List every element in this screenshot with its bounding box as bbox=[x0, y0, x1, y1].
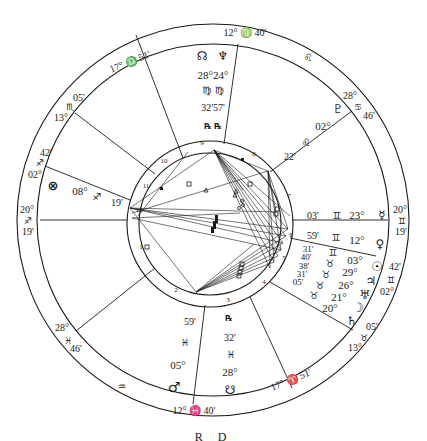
jupiter-degree: 29° bbox=[342, 267, 357, 277]
saturn-sign-icon: ♉ bbox=[310, 291, 319, 301]
cusp-2-sign-icon: ♐ bbox=[36, 158, 44, 168]
house-number-2: 2 bbox=[174, 285, 178, 295]
house-number-4: 4 bbox=[262, 277, 266, 287]
saturn-minute: 05' bbox=[293, 277, 304, 287]
house-number-5: 5 bbox=[282, 253, 286, 263]
cusp-12-degree: 28° bbox=[55, 323, 69, 333]
node-neptune-degrees: 28°24° bbox=[198, 70, 229, 80]
moon-degree: 21° bbox=[331, 292, 346, 302]
north-node-icon: ☊ bbox=[197, 51, 208, 61]
house-number-11: 11 bbox=[143, 181, 150, 191]
cusp-3-degree: 13° bbox=[54, 113, 68, 123]
venus-minute: 59' bbox=[307, 231, 319, 241]
venus-degree: 12° bbox=[349, 235, 364, 245]
asc-minute: 19' bbox=[22, 227, 34, 237]
mercury-minute: 03' bbox=[307, 211, 319, 221]
sun-icon: ☉ bbox=[371, 262, 383, 272]
mercury-degree: 23° bbox=[349, 210, 364, 220]
cusp-2-degree: 02° bbox=[28, 170, 42, 180]
pof-degree: 08° bbox=[72, 186, 87, 196]
cusp-8-degree: 02° bbox=[380, 287, 394, 297]
dsc-sign-icon: ♊ bbox=[398, 216, 406, 226]
cusp-8-minute: 42' bbox=[389, 262, 401, 272]
house-number-9: 9 bbox=[200, 138, 204, 148]
jupiter-sign-icon: ♉ bbox=[326, 259, 335, 269]
cusp-8-sign-icon: ♊ bbox=[387, 275, 395, 285]
venus-icon: ♀ bbox=[376, 239, 385, 249]
mercury-icon: ☿ bbox=[378, 210, 385, 220]
retrograde-icons: ℞ ℞ bbox=[204, 122, 221, 132]
mars-icon: ♂ bbox=[168, 382, 181, 392]
south-node-icon: ☋ bbox=[225, 385, 236, 395]
moon-icon: ☽ bbox=[352, 303, 364, 313]
house-number-6: 6 bbox=[289, 230, 293, 240]
cusp-3-minute: 05' bbox=[73, 93, 85, 103]
cusp-2-minute: 42' bbox=[40, 148, 52, 158]
dsc-degree: 20° bbox=[393, 205, 407, 215]
cusp-9-degree: 13° bbox=[348, 343, 362, 353]
part-of-fortune-icon: ⊗ bbox=[48, 181, 59, 191]
node-neptune-minutes: 32'57' bbox=[201, 103, 225, 113]
neptune-icon: ♆ bbox=[218, 51, 229, 61]
sun-sign-icon: ♊ bbox=[329, 248, 338, 258]
uranus-degree: 26° bbox=[338, 280, 353, 290]
mercury-sign-icon: ♊ bbox=[333, 211, 342, 221]
mars-degree: 05° bbox=[170, 360, 185, 370]
venus-sign-icon: ♊ bbox=[332, 233, 341, 243]
house-number-8: 8 bbox=[252, 149, 256, 159]
cusp-3-sign-icon: ♏ bbox=[66, 102, 74, 112]
aspect-lines bbox=[130, 150, 290, 292]
pluto-icon: ♇ bbox=[333, 104, 344, 114]
pluto-minute: 22' bbox=[284, 152, 296, 162]
house-number-1: 1 bbox=[139, 242, 143, 252]
asc-degree: 20° bbox=[20, 205, 34, 215]
ic-label: 12° ♓ 40' bbox=[173, 406, 216, 416]
sun-degree: 03° bbox=[347, 255, 362, 265]
south-node-sign-icon: ♓ bbox=[227, 350, 236, 360]
jupiter-icon: ♃ bbox=[366, 276, 377, 286]
pluto-degree: 02° bbox=[315, 121, 330, 131]
pof-minute: 19' bbox=[111, 198, 123, 208]
cusp-12-minute: 46' bbox=[70, 344, 82, 354]
south-node-retrograde-icon: ℞ bbox=[225, 314, 232, 324]
asc-sign-icon: ♐ bbox=[24, 216, 32, 226]
south-node-degree: 28° bbox=[222, 367, 237, 377]
saturn-icon: ♄ bbox=[347, 316, 358, 326]
cusp-6-minute: 46' bbox=[363, 111, 375, 121]
house-number-3: 3 bbox=[226, 295, 230, 305]
pluto-sign-icon: ♌ bbox=[302, 138, 311, 148]
uranus-sign-icon: ♉ bbox=[322, 270, 331, 280]
south-node-minute: 32' bbox=[224, 333, 236, 343]
house-number-12: 12 bbox=[136, 205, 143, 215]
cusp-6-degree: 28° bbox=[343, 91, 357, 101]
dsc-minute: 19' bbox=[395, 227, 407, 237]
virgo-signs-icon: ♍ ♍ bbox=[202, 86, 223, 96]
uranus-icon: ♅ bbox=[360, 290, 371, 300]
pof-sign-icon: ♐ bbox=[93, 192, 102, 202]
saturn-degree: 20° bbox=[322, 303, 337, 313]
mars-sign-icon: ♓ bbox=[181, 338, 190, 348]
chart-caption: R D bbox=[0, 430, 427, 441]
cusp-9-minute: 05' bbox=[366, 322, 378, 332]
house-number-7: 7 bbox=[287, 191, 291, 201]
intercepted-leo-icon: ♌ bbox=[304, 53, 313, 63]
cusp-6-sign-icon: ♋ bbox=[354, 102, 362, 112]
intercepted-aquarius-icon: ♒ bbox=[118, 382, 127, 392]
house-number-10: 10 bbox=[161, 156, 168, 166]
mars-minute: 59' bbox=[184, 317, 196, 327]
mc-label: 12° ♍ 40' bbox=[224, 28, 267, 38]
